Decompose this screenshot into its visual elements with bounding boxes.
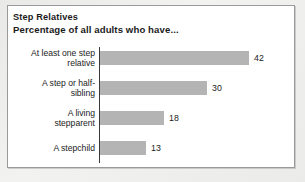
bar-value-label: 30 <box>212 81 222 95</box>
bar-row: A stepchild 13 <box>8 134 294 161</box>
bar-group: 18 <box>100 111 179 125</box>
category-label: A living stepparent <box>9 107 95 128</box>
plot-area: At least one step relative 42 A step or … <box>8 44 294 167</box>
category-label-line2: stepparent <box>54 118 95 128</box>
bar-value-label: 42 <box>254 51 264 65</box>
chart-title: Step Relatives <box>13 11 283 23</box>
bar <box>100 51 249 65</box>
bar-value-label: 18 <box>169 111 179 125</box>
chart-subtitle: Percentage of all adults who have... <box>13 23 283 36</box>
bar-row: At least one step relative 42 <box>8 44 294 71</box>
figure-background: Step Relatives Percentage of all adults … <box>0 0 305 182</box>
bar <box>100 111 164 125</box>
bar <box>100 81 207 95</box>
category-label-line1: A stepchild <box>53 142 95 152</box>
bar-row: A step or half- sibling 30 <box>8 74 294 101</box>
chart-panel: Step Relatives Percentage of all adults … <box>7 5 295 168</box>
bar-group: 30 <box>100 81 222 95</box>
title-block: Step Relatives Percentage of all adults … <box>13 11 283 36</box>
category-label-line1: A step or half- <box>42 77 95 87</box>
bar-group: 42 <box>100 51 264 65</box>
category-label-line1: At least one step <box>31 47 95 57</box>
bar <box>100 141 146 155</box>
bar-row: A living stepparent 18 <box>8 104 294 131</box>
category-label: A step or half- sibling <box>9 77 95 98</box>
category-label-line2: relative <box>67 58 95 68</box>
category-label-line2: sibling <box>71 88 95 98</box>
category-label: A stepchild <box>9 142 95 153</box>
bar-group: 13 <box>100 141 161 155</box>
category-label: At least one step relative <box>9 47 95 68</box>
bar-value-label: 13 <box>151 141 161 155</box>
category-label-line1: A living <box>68 107 95 117</box>
